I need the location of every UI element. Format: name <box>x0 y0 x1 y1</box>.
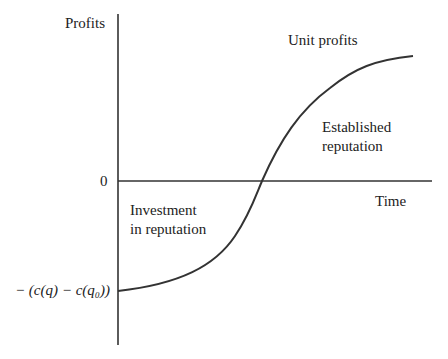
investment-label-2: in reputation <box>130 220 206 238</box>
x-axis-label: Time <box>375 192 406 210</box>
unit-profits-curve <box>118 56 413 291</box>
investment-label-1: Investment <box>130 201 197 219</box>
y-axis-label: Profits <box>65 14 105 32</box>
intercept-tick-label: − (c(q) − c(q₀)) <box>15 281 110 299</box>
zero-tick-label: 0 <box>100 172 108 190</box>
established-label-2: reputation <box>322 137 383 155</box>
curve-label: Unit profits <box>288 31 358 49</box>
diagram-canvas <box>0 0 448 359</box>
established-label-1: Established <box>322 118 391 136</box>
